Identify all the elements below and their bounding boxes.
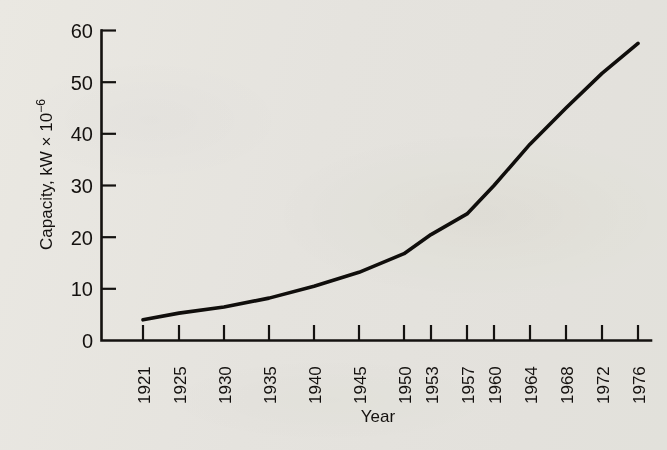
x-axis-title: Year xyxy=(361,407,396,426)
x-tick-label: 1930 xyxy=(216,366,235,404)
y-tick-labels: 60 50 40 30 20 10 0 xyxy=(71,20,93,352)
y-axis-title: Capacity, kW × 10−6 xyxy=(34,99,56,250)
y-tick-label: 60 xyxy=(71,20,93,42)
x-tick-label: 1968 xyxy=(558,366,577,404)
x-tick-label: 1940 xyxy=(306,366,325,404)
x-tick-label: 1976 xyxy=(630,366,649,404)
x-tick-label: 1960 xyxy=(486,366,505,404)
y-axis-title-exponent: −6 xyxy=(34,99,48,113)
y-tick-label: 0 xyxy=(82,330,93,352)
x-tick-labels: 1921 1925 1930 1935 1940 1945 1950 1953 … xyxy=(135,366,649,404)
axis-spine xyxy=(102,31,652,341)
chart-svg: Capacity, kW × 10−6 60 50 40 30 20 10 0 xyxy=(0,0,667,450)
x-tick-label: 1925 xyxy=(171,366,190,404)
svg-text:Capacity, kW × 10−6: Capacity, kW × 10−6 xyxy=(34,99,56,250)
y-tick-label: 20 xyxy=(71,227,93,249)
y-tick-label: 50 xyxy=(71,72,93,94)
x-ticks xyxy=(143,325,638,340)
capacity-line-series xyxy=(143,43,638,319)
y-tick-label: 30 xyxy=(71,175,93,197)
axis-lines xyxy=(102,31,652,341)
y-ticks xyxy=(101,31,116,289)
x-tick-label: 1953 xyxy=(423,366,442,404)
x-tick-label: 1921 xyxy=(135,366,154,404)
x-tick-label: 1950 xyxy=(396,366,415,404)
chart-figure: Capacity, kW × 10−6 60 50 40 30 20 10 0 xyxy=(0,0,667,450)
x-tick-label: 1964 xyxy=(522,366,541,404)
x-tick-label: 1945 xyxy=(351,366,370,404)
y-tick-label: 40 xyxy=(71,123,93,145)
y-tick-label: 10 xyxy=(71,278,93,300)
x-tick-label: 1935 xyxy=(261,366,280,404)
x-tick-label: 1972 xyxy=(594,366,613,404)
y-axis-title-base: Capacity, kW × 10 xyxy=(37,113,56,250)
x-tick-label: 1957 xyxy=(459,366,478,404)
